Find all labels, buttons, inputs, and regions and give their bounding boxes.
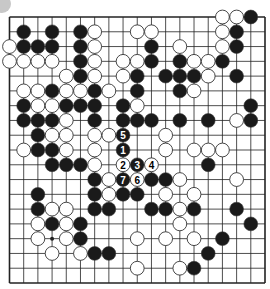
white-stone-disc bbox=[159, 143, 173, 157]
black-stone-disc bbox=[230, 69, 244, 83]
white-stone-disc bbox=[201, 69, 215, 83]
white-stone-disc bbox=[116, 69, 130, 83]
black-stone bbox=[159, 69, 173, 83]
black-stone-disc bbox=[74, 99, 88, 113]
black-stone bbox=[201, 114, 215, 128]
black-stone bbox=[145, 114, 159, 128]
white-stone bbox=[3, 54, 17, 68]
white-stone bbox=[201, 69, 215, 83]
white-stone bbox=[159, 128, 173, 142]
black-stone bbox=[201, 247, 215, 261]
black-stone bbox=[74, 232, 88, 246]
black-stone: 7 bbox=[116, 173, 130, 187]
white-stone bbox=[159, 187, 173, 201]
white-stone bbox=[45, 99, 59, 113]
black-stone-disc bbox=[201, 158, 215, 172]
white-stone bbox=[17, 54, 31, 68]
black-stone-disc bbox=[216, 54, 230, 68]
white-stone-disc bbox=[45, 247, 59, 261]
black-stone-disc bbox=[244, 217, 258, 231]
white-stone bbox=[130, 261, 144, 275]
white-stone-disc bbox=[159, 232, 173, 246]
black-stone-disc bbox=[74, 40, 88, 54]
white-stone bbox=[88, 40, 102, 54]
white-stone bbox=[145, 25, 159, 39]
white-stone-disc bbox=[31, 232, 45, 246]
black-stone bbox=[74, 158, 88, 172]
black-stone-disc bbox=[116, 187, 130, 201]
white-stone bbox=[159, 232, 173, 246]
white-stone bbox=[59, 84, 73, 98]
white-stone bbox=[159, 143, 173, 157]
black-stone-disc bbox=[74, 25, 88, 39]
black-stone bbox=[31, 143, 45, 157]
white-stone-disc bbox=[59, 128, 73, 142]
black-stone-disc bbox=[74, 217, 88, 231]
white-stone-disc bbox=[201, 54, 215, 68]
white-stone-disc bbox=[31, 84, 45, 98]
black-stone-disc bbox=[31, 187, 45, 201]
white-stone bbox=[59, 217, 73, 231]
white-stone bbox=[59, 232, 73, 246]
black-stone bbox=[173, 69, 187, 83]
white-stone bbox=[88, 69, 102, 83]
black-stone-disc bbox=[173, 69, 187, 83]
black-stone-disc bbox=[130, 69, 144, 83]
black-stone-disc bbox=[116, 99, 130, 113]
white-stone bbox=[187, 54, 201, 68]
black-stone bbox=[230, 40, 244, 54]
move-number-label: 1 bbox=[120, 145, 126, 156]
black-stone-disc bbox=[230, 40, 244, 54]
black-stone bbox=[130, 187, 144, 201]
black-stone-disc bbox=[45, 217, 59, 231]
black-stone bbox=[102, 202, 116, 216]
white-stone bbox=[17, 143, 31, 157]
white-stone-disc bbox=[45, 202, 59, 216]
black-stone-disc bbox=[45, 40, 59, 54]
white-stone-disc bbox=[216, 10, 230, 24]
white-stone-disc bbox=[216, 143, 230, 157]
white-stone-disc bbox=[130, 25, 144, 39]
stones-layer: 5123476 bbox=[3, 10, 258, 275]
black-stone-disc bbox=[216, 232, 230, 246]
white-stone-disc bbox=[88, 128, 102, 142]
black-stone bbox=[59, 158, 73, 172]
black-stone bbox=[88, 173, 102, 187]
black-stone bbox=[17, 99, 31, 113]
black-stone bbox=[145, 54, 159, 68]
white-stone-disc bbox=[59, 232, 73, 246]
black-stone bbox=[116, 114, 130, 128]
white-stone-disc bbox=[187, 54, 201, 68]
black-stone-disc bbox=[159, 69, 173, 83]
black-stone-disc bbox=[187, 202, 201, 216]
black-stone bbox=[159, 202, 173, 216]
white-stone bbox=[88, 143, 102, 157]
white-stone-disc bbox=[187, 232, 201, 246]
black-stone-disc bbox=[145, 173, 159, 187]
white-stone bbox=[216, 10, 230, 24]
black-stone-disc bbox=[145, 54, 159, 68]
move-number-label: 7 bbox=[120, 175, 126, 186]
white-stone bbox=[130, 99, 144, 113]
black-stone bbox=[45, 217, 59, 231]
black-stone-disc bbox=[88, 187, 102, 201]
black-stone-disc bbox=[88, 99, 102, 113]
white-stone bbox=[88, 128, 102, 142]
black-stone bbox=[74, 25, 88, 39]
black-stone-disc bbox=[74, 158, 88, 172]
black-stone bbox=[201, 158, 215, 172]
white-stone bbox=[31, 232, 45, 246]
black-stone-disc bbox=[88, 173, 102, 187]
corner-marker bbox=[0, 0, 11, 13]
move-number-label: 6 bbox=[134, 175, 140, 186]
white-stone bbox=[102, 173, 116, 187]
black-stone bbox=[45, 84, 59, 98]
black-stone bbox=[187, 69, 201, 83]
black-stone-disc bbox=[17, 99, 31, 113]
white-stone bbox=[187, 232, 201, 246]
black-stone bbox=[88, 84, 102, 98]
black-stone: 3 bbox=[130, 158, 144, 172]
black-stone: 1 bbox=[116, 143, 130, 157]
black-stone-disc bbox=[130, 84, 144, 98]
black-stone-disc bbox=[244, 10, 258, 24]
